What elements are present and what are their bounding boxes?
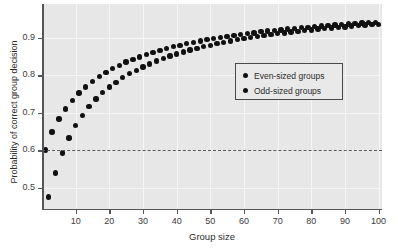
data-point (268, 32, 273, 37)
y-tick-label: 0.5 (22, 182, 35, 192)
data-point (134, 68, 139, 73)
data-point (83, 84, 88, 89)
y-tick-label: 0.9 (22, 32, 35, 42)
data-point (76, 90, 81, 95)
data-point (90, 79, 95, 84)
chart-figure: Probability of correct group decision Gr… (0, 0, 398, 249)
data-point (248, 35, 253, 40)
data-point (194, 46, 199, 51)
data-point (356, 23, 361, 28)
x-tick (278, 210, 280, 214)
legend-label-odd: Odd-sized groups (254, 86, 321, 96)
data-point (282, 30, 287, 35)
data-point (177, 43, 182, 48)
data-point (204, 37, 209, 42)
data-point (221, 40, 226, 45)
data-point (376, 22, 381, 27)
gridline-vertical (210, 4, 211, 210)
data-point (70, 98, 75, 103)
data-point (171, 44, 176, 49)
data-point (187, 47, 192, 52)
data-point (342, 24, 347, 29)
gridline-horizontal (42, 188, 382, 189)
data-point (130, 57, 135, 62)
gridline-vertical (143, 4, 144, 210)
data-point (100, 90, 105, 95)
data-point (113, 80, 118, 85)
data-point (137, 54, 142, 59)
data-point (369, 22, 374, 27)
data-point (336, 25, 341, 30)
data-point (164, 46, 169, 51)
y-tick (38, 188, 42, 190)
data-point (103, 70, 108, 75)
x-tick-label: 100 (359, 216, 398, 226)
gridline-vertical (177, 4, 178, 210)
x-tick (244, 210, 246, 214)
data-point (174, 51, 179, 56)
y-tick (38, 113, 42, 115)
legend-item-even: Even-sized groups (243, 68, 336, 83)
data-point (73, 123, 78, 128)
data-point (107, 84, 112, 89)
data-point (302, 28, 307, 33)
y-axis-title: Probability of correct group decision (9, 12, 19, 212)
legend-item-odd: Odd-sized groups (243, 83, 336, 98)
gridline-vertical (311, 4, 312, 210)
data-point (86, 104, 91, 109)
data-point (120, 75, 125, 80)
data-point (117, 63, 122, 68)
y-tick-label: 0.7 (22, 107, 35, 117)
data-point (97, 74, 102, 79)
data-point (93, 96, 98, 101)
y-tick-label: 0.6 (22, 144, 35, 154)
data-point (46, 194, 51, 199)
reference-line (42, 150, 382, 151)
data-point (362, 22, 367, 27)
data-point (275, 31, 280, 36)
data-point (147, 61, 152, 66)
data-point (150, 50, 155, 55)
plot-area (42, 4, 382, 210)
data-point (161, 56, 166, 61)
data-point (315, 26, 320, 31)
data-point (49, 129, 54, 134)
data-point (123, 59, 128, 64)
data-point (60, 150, 65, 155)
y-tick (38, 38, 42, 40)
data-point (214, 41, 219, 46)
data-point (184, 41, 189, 46)
data-point (66, 135, 71, 140)
x-axis-title: Group size (42, 231, 382, 242)
data-point (181, 49, 186, 54)
data-point (157, 48, 162, 53)
x-tick (177, 210, 179, 214)
data-point (167, 53, 172, 58)
x-tick (345, 210, 347, 214)
data-point (110, 66, 115, 71)
x-axis-line (42, 209, 382, 211)
y-tick (38, 150, 42, 152)
data-point (208, 43, 213, 48)
data-point (322, 26, 327, 31)
y-axis-line (42, 4, 44, 210)
data-point (235, 37, 240, 42)
data-point (56, 116, 61, 121)
x-tick (76, 210, 78, 214)
y-tick-label: 0.8 (22, 69, 35, 79)
gridline-horizontal (42, 113, 382, 114)
data-point (261, 33, 266, 38)
x-tick (210, 210, 212, 214)
legend: Even-sized groups Odd-sized groups (235, 63, 343, 100)
x-tick (109, 210, 111, 214)
data-point (295, 29, 300, 34)
gridline-vertical (76, 4, 77, 210)
gridline-vertical (345, 4, 346, 210)
data-point (309, 27, 314, 32)
y-tick (38, 75, 42, 77)
data-point (241, 36, 246, 41)
data-point (53, 170, 58, 175)
data-point (191, 40, 196, 45)
x-tick (143, 210, 145, 214)
x-tick (379, 210, 381, 214)
